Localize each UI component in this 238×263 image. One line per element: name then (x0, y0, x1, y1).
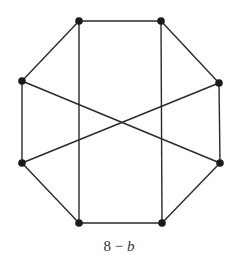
graph-edges (22, 21, 220, 223)
graph-edge (161, 21, 162, 223)
graph-node-top-right (157, 17, 165, 25)
graph-node-left-lower (18, 159, 26, 167)
graph-node-top-left (75, 17, 83, 25)
caption-number: 8 (104, 238, 112, 254)
graph-node-bottom-left (75, 219, 83, 227)
graph-edge (219, 83, 220, 163)
graph-diagram (0, 0, 238, 263)
caption-separator: − (115, 238, 123, 254)
caption-variable: b (127, 238, 135, 254)
graph-edge (22, 163, 79, 223)
graph-node-left-upper (18, 77, 26, 85)
graph-node-right-lower (216, 159, 224, 167)
graph-node-right-upper (215, 79, 223, 87)
figure-caption: 8 − b (0, 238, 238, 255)
graph-edge (161, 21, 219, 83)
graph-edge (162, 163, 220, 223)
graph-node-bottom-right (158, 219, 166, 227)
graph-edge (22, 21, 79, 81)
